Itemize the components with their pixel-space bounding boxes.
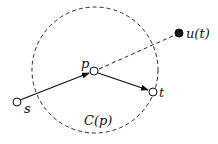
label-u: u(t) (186, 26, 210, 41)
edge-p-t (98, 73, 148, 90)
node-u (175, 29, 183, 37)
edge-s-p (20, 73, 89, 100)
diagram-canvas: s p t u(t) C(p) (0, 0, 218, 144)
edge-p-u-dashed (99, 35, 175, 69)
label-p: p (81, 56, 90, 71)
node-s (13, 98, 21, 106)
node-t (149, 88, 157, 96)
label-s: s (24, 101, 31, 116)
label-circle: C(p) (84, 113, 112, 128)
label-t: t (159, 85, 165, 100)
node-p (90, 67, 98, 75)
